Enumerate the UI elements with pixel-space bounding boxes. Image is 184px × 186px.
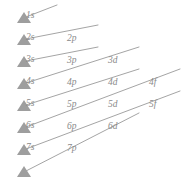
diagonal-line-2 — [26, 25, 98, 39]
orbital-label-2s: 2s — [26, 33, 35, 43]
diagram-canvas — [0, 0, 184, 186]
orbital-label-4s: 4s — [26, 77, 35, 87]
orbital-label-5f: 5f — [149, 100, 157, 110]
orbital-label-3p: 3p — [67, 56, 77, 66]
aufbau-diagram: 1s 2s 3s 4s 5s 6s 7s 2p 3p 4p 5p 6p 7p 3… — [0, 0, 184, 186]
orbital-label-5d: 5d — [108, 100, 118, 110]
diagonal-arrow-lines — [26, 5, 180, 171]
orbital-label-4d: 4d — [108, 78, 118, 88]
diagonal-line-3 — [26, 47, 98, 61]
orbital-label-6s: 6s — [26, 121, 35, 131]
diagonal-line-5 — [26, 69, 139, 105]
orbital-label-5s: 5s — [26, 99, 35, 109]
orbital-label-7p: 7p — [67, 144, 77, 154]
orbital-label-7s: 7s — [26, 143, 35, 153]
orbital-label-6p: 6p — [67, 122, 77, 132]
diagonal-line-4 — [26, 47, 139, 83]
diagonal-line-8 — [26, 113, 139, 171]
orbital-label-2p: 2p — [67, 34, 77, 44]
orbital-label-6d: 6d — [108, 122, 118, 132]
orbital-label-1s: 1s — [26, 11, 35, 21]
orbital-label-4f: 4f — [149, 78, 157, 88]
orbital-label-4p: 4p — [67, 78, 77, 88]
orbital-label-3d: 3d — [108, 56, 118, 66]
orbital-label-5p: 5p — [67, 100, 77, 110]
arrowhead-8s-icon — [17, 166, 31, 177]
orbital-label-3s: 3s — [26, 55, 35, 65]
